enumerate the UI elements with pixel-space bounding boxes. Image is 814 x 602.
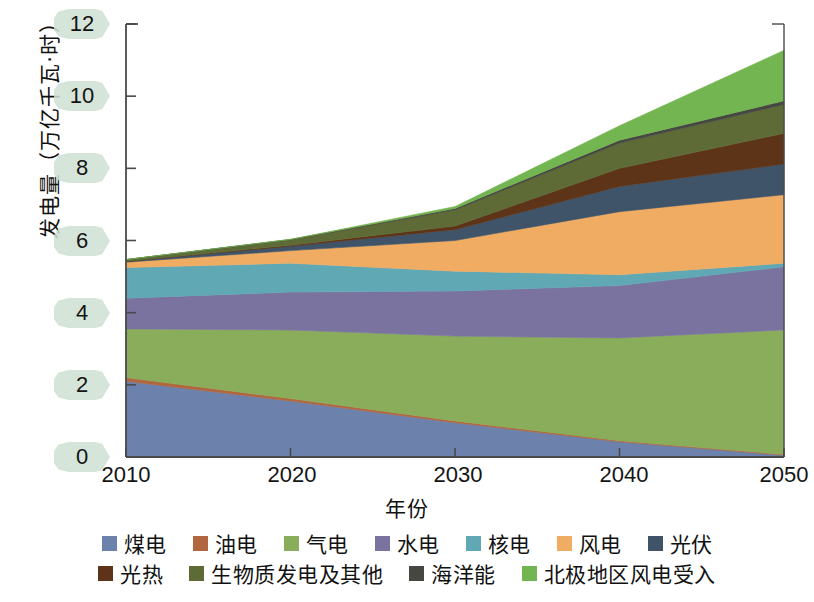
- legend-label: 气电: [306, 528, 349, 558]
- legend-swatch-icon: [189, 566, 204, 581]
- x-tick-2010: 2010: [102, 462, 151, 488]
- y-tick-2: 2: [54, 370, 110, 400]
- area-series: [126, 133, 784, 261]
- legend-swatch-icon: [466, 536, 481, 551]
- legend-item[interactable]: 风电: [557, 528, 622, 558]
- x-tick-2050: 2050: [760, 462, 809, 488]
- y-tick-10: 10: [54, 81, 110, 111]
- legend-row-1: 煤电油电气电水电核电风电光伏: [0, 528, 814, 558]
- chart-legend: 煤电油电气电水电核电风电光伏 光热生物质发电及其他海洋能北极地区风电受入: [0, 528, 814, 588]
- area-series: [126, 195, 784, 275]
- legend-item[interactable]: 油电: [193, 528, 258, 558]
- area-series: [126, 50, 784, 259]
- legend-label: 油电: [215, 528, 258, 558]
- legend-swatch-icon: [284, 536, 299, 551]
- area-series: [126, 378, 784, 456]
- area-series-group: [126, 50, 784, 457]
- legend-swatch-icon: [193, 536, 208, 551]
- area-series: [126, 104, 784, 261]
- chart-figure: 发电量（万亿千瓦·时） 12 10 8 6 4 2 0 2010 2020 20…: [0, 0, 814, 602]
- x-tick-2020: 2020: [268, 462, 317, 488]
- legend-item[interactable]: 北极地区风电受入: [522, 558, 716, 588]
- legend-label: 光热: [120, 558, 163, 588]
- legend-label: 风电: [579, 528, 622, 558]
- y-tick-6: 6: [54, 226, 110, 256]
- area-series: [126, 164, 784, 262]
- legend-swatch-icon: [375, 536, 390, 551]
- x-tick-2030: 2030: [434, 462, 483, 488]
- legend-item[interactable]: 海洋能: [409, 558, 496, 588]
- y-tick-4: 4: [54, 298, 110, 328]
- legend-swatch-icon: [557, 536, 572, 551]
- legend-label: 光伏: [670, 528, 713, 558]
- legend-item[interactable]: 气电: [284, 528, 349, 558]
- legend-label: 生物质发电及其他: [211, 558, 383, 588]
- legend-swatch-icon: [522, 566, 537, 581]
- legend-item[interactable]: 水电: [375, 528, 440, 558]
- legend-swatch-icon: [409, 566, 424, 581]
- area-series: [126, 267, 784, 338]
- legend-swatch-icon: [102, 536, 117, 551]
- legend-swatch-icon: [648, 536, 663, 551]
- area-series: [126, 329, 784, 455]
- legend-item[interactable]: 生物质发电及其他: [189, 558, 383, 588]
- legend-item[interactable]: 光伏: [648, 528, 713, 558]
- legend-label: 水电: [397, 528, 440, 558]
- area-series: [126, 381, 784, 457]
- x-axis-title: 年份: [0, 492, 814, 522]
- area-series: [126, 101, 784, 260]
- axis-lines: [126, 24, 784, 457]
- legend-item[interactable]: 煤电: [102, 528, 167, 558]
- x-tick-2040: 2040: [600, 462, 649, 488]
- legend-item[interactable]: 光热: [98, 558, 163, 588]
- y-tick-8: 8: [54, 153, 110, 183]
- legend-label: 核电: [488, 528, 531, 558]
- legend-label: 北极地区风电受入: [544, 558, 716, 588]
- legend-row-2: 光热生物质发电及其他海洋能北极地区风电受入: [0, 558, 814, 588]
- legend-swatch-icon: [98, 566, 113, 581]
- legend-label: 海洋能: [431, 558, 496, 588]
- y-tick-12: 12: [54, 9, 110, 39]
- area-series: [126, 263, 784, 298]
- legend-item[interactable]: 核电: [466, 528, 531, 558]
- legend-label: 煤电: [124, 528, 167, 558]
